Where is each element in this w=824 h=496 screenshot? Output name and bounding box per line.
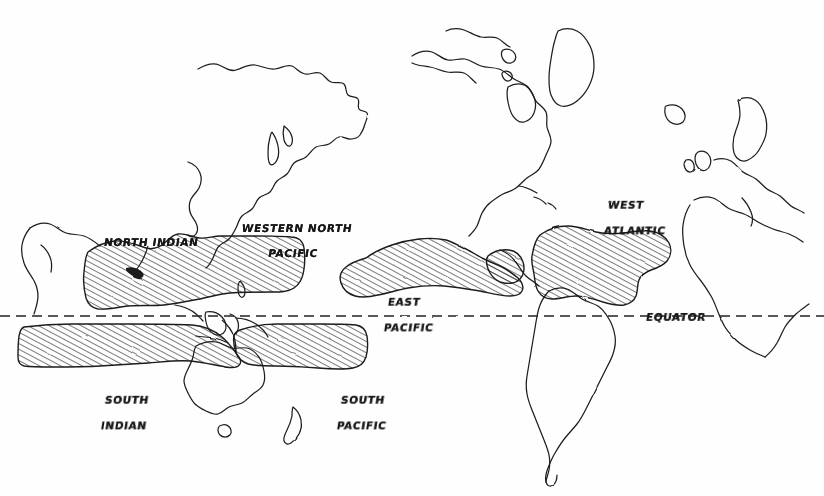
label-south-pacific: SOUTH PACIFIC <box>317 381 393 444</box>
label-east-pacific-line1: EAST <box>387 296 421 308</box>
canada-arctic <box>446 29 510 47</box>
arabia-horn <box>30 223 100 246</box>
south-america-west <box>526 291 550 482</box>
italy-peninsula <box>742 198 753 226</box>
japan-arc <box>268 132 279 165</box>
new-zealand <box>284 407 302 444</box>
label-north-indian: NORTH INDIAN <box>103 236 199 249</box>
label-south-pacific-line2: PACIFIC <box>336 419 387 431</box>
indonesia-sumatra <box>175 305 203 321</box>
africa-west <box>683 205 765 357</box>
label-south-indian-line1: SOUTH <box>104 394 150 406</box>
british-isles <box>695 151 711 170</box>
europe-scandinavia <box>733 98 767 161</box>
hudson-bay <box>507 84 535 122</box>
label-western-north-pacific-line2: PACIFIC <box>268 247 319 259</box>
europe-mainland <box>714 159 804 213</box>
label-west-atlantic-line2: ATLANTIC <box>603 224 667 236</box>
africa-south-east <box>765 304 809 357</box>
label-west-atlantic: WEST ATLANTIC <box>584 186 673 249</box>
caribbean-islet <box>548 203 556 209</box>
basin-south-pacific <box>234 324 368 369</box>
label-south-indian: SOUTH INDIAN <box>81 381 154 444</box>
label-western-north-pacific: WESTERN NORTH PACIFIC <box>218 209 355 272</box>
basin-regions-group <box>0 0 671 369</box>
greenland <box>549 29 594 107</box>
alaska <box>412 63 476 83</box>
basin-south-indian <box>18 324 241 368</box>
map-canvas: NORTH INDIAN WESTERN NORTH PACIFIC EAST … <box>0 0 824 496</box>
indochina <box>188 162 201 236</box>
tasmania <box>218 425 231 437</box>
caribbean-hispaniola <box>534 197 546 204</box>
label-western-north-pacific-line1: WESTERN NORTH <box>241 222 353 234</box>
ireland <box>684 160 694 172</box>
south-america <box>546 288 616 486</box>
label-west-atlantic-line1: WEST <box>607 199 645 211</box>
mediterranean-africa-north <box>694 197 803 242</box>
caribbean-cuba <box>519 186 537 193</box>
label-south-indian-line2: INDIAN <box>100 419 148 431</box>
label-east-pacific: EAST PACIFIC <box>364 283 440 346</box>
label-south-pacific-line1: SOUTH <box>340 394 386 406</box>
label-equator: EQUATOR <box>645 311 707 324</box>
japan-islands <box>283 126 292 146</box>
africa-east-left <box>22 228 38 314</box>
label-east-pacific-line2: PACIFIC <box>383 321 434 333</box>
red-sea-left <box>41 245 52 272</box>
baffin-island <box>502 49 516 63</box>
iceland <box>665 105 685 124</box>
north-america <box>412 51 551 236</box>
